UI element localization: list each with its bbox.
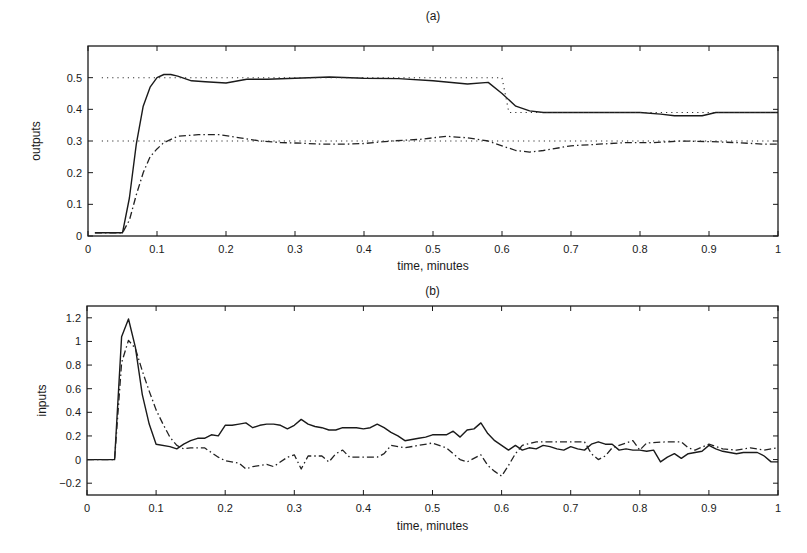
y-tick-label: 1.2	[66, 312, 81, 324]
x-tick-label: 0.6	[494, 243, 509, 255]
x-tick-label: 0.7	[563, 243, 578, 255]
y-tick-label: −0.2	[59, 477, 81, 489]
y-tick-label: 0.2	[67, 167, 82, 179]
x-axis-label: time, minutes	[397, 259, 468, 273]
plot-a-outputs: (a)00.10.20.30.40.50.60.70.80.9100.10.20…	[29, 9, 781, 273]
x-tick-label: 0.1	[149, 243, 164, 255]
y-tick-label: 0.3	[67, 135, 82, 147]
x-tick-label: 0.8	[632, 502, 647, 514]
y-axis-label: outputs	[29, 121, 43, 160]
y-tick-label: 0.6	[66, 383, 81, 395]
series-line-output-2	[95, 135, 778, 233]
x-axis-label: time, minutes	[397, 519, 468, 533]
series-line-input-1	[87, 319, 778, 462]
x-tick-label: 0.5	[425, 502, 440, 514]
x-tick-label: 0	[84, 502, 90, 514]
x-tick-label: 0.3	[287, 502, 302, 514]
x-tick-label: 0.4	[356, 502, 371, 514]
x-tick-label: 0.1	[148, 502, 163, 514]
y-tick-label: 0.5	[67, 72, 82, 84]
y-tick-label: 1	[75, 335, 81, 347]
x-tick-label: 0.9	[701, 502, 716, 514]
y-tick-label: 0.1	[67, 198, 82, 210]
x-tick-label: 0.3	[287, 243, 302, 255]
y-tick-label: 0	[75, 454, 81, 466]
series-line-input-2	[87, 340, 778, 476]
x-tick-label: 0.9	[701, 243, 716, 255]
y-tick-label: 0.8	[66, 359, 81, 371]
series-line-setpoint-1	[102, 78, 778, 113]
x-tick-label: 1	[775, 243, 781, 255]
x-tick-label: 0.6	[494, 502, 509, 514]
x-tick-label: 0.7	[563, 502, 578, 514]
y-axis-label: inputs	[35, 384, 49, 416]
plot-b-inputs: (b)00.10.20.30.40.50.60.70.80.91−0.200.2…	[35, 284, 781, 533]
x-tick-label: 1	[775, 502, 781, 514]
x-tick-label: 0	[85, 243, 91, 255]
x-tick-label: 0.2	[218, 502, 233, 514]
plot-title: (b)	[425, 284, 440, 298]
x-tick-label: 0.5	[425, 243, 440, 255]
plot-title: (a)	[426, 9, 441, 23]
axes-frame	[87, 306, 778, 495]
x-tick-label: 0.2	[218, 243, 233, 255]
y-tick-label: 0.4	[67, 103, 82, 115]
y-tick-label: 0.4	[66, 406, 81, 418]
x-tick-label: 0.8	[632, 243, 647, 255]
series-line-output-1	[95, 75, 778, 233]
y-tick-label: 0.2	[66, 430, 81, 442]
figure: (a)00.10.20.30.40.50.60.70.80.9100.10.20…	[0, 0, 807, 553]
x-tick-label: 0.4	[356, 243, 371, 255]
y-tick-label: 0	[76, 230, 82, 242]
